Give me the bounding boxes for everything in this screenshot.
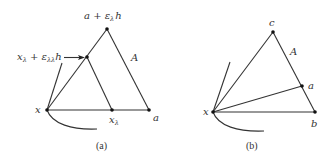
edge-c-b xyxy=(273,32,315,112)
point-a xyxy=(147,108,151,112)
edge-x-a xyxy=(213,86,302,112)
diagram-canvas: a + ελh xλ + ελλh A x xλ a (a) c A a b x… xyxy=(0,0,336,165)
edge-mid-xlambda xyxy=(87,57,112,110)
curve-a xyxy=(47,110,97,129)
label-x: x xyxy=(35,104,41,115)
label-c: c xyxy=(269,17,275,28)
label-inner-point: xλ + ελλh xyxy=(17,51,62,64)
edge-a-apex xyxy=(107,29,149,110)
point-a xyxy=(300,84,304,88)
label-set-a: A xyxy=(289,46,297,57)
caption-b: (b) xyxy=(246,140,258,152)
label-a: a xyxy=(153,112,159,123)
point-mid xyxy=(85,55,89,59)
point-x xyxy=(45,108,49,112)
point-b xyxy=(313,110,317,114)
label-b: b xyxy=(311,118,317,129)
label-set-a: A xyxy=(130,52,138,63)
label-x-lambda: xλ xyxy=(109,114,119,127)
label-a: a xyxy=(308,80,314,91)
tangent-line-b xyxy=(213,62,230,112)
point-x-lambda xyxy=(110,108,114,112)
label-x: x xyxy=(203,106,209,117)
label-apex: a + ελh xyxy=(84,10,122,23)
edge-x-c xyxy=(213,32,273,112)
point-apex xyxy=(105,27,109,31)
point-x xyxy=(211,110,215,114)
tangent-line-a xyxy=(47,63,62,110)
point-c xyxy=(271,30,275,34)
figure-b: c A a b x (b) xyxy=(203,17,317,152)
figure-a: a + ελh xλ + ελλh A x xλ a (a) xyxy=(17,10,159,152)
caption-a: (a) xyxy=(96,140,107,152)
edge-x-apex xyxy=(47,29,107,110)
curve-b xyxy=(213,112,264,131)
